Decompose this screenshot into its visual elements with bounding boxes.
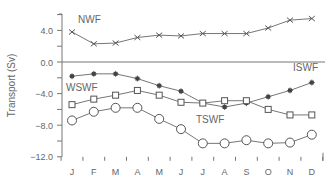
x-tick-label: J bbox=[201, 167, 206, 177]
series-tswf bbox=[68, 103, 317, 148]
series-line bbox=[72, 108, 312, 144]
star-marker-cross bbox=[134, 76, 140, 82]
circle-marker-icon bbox=[111, 103, 120, 112]
circle-marker-icon bbox=[307, 130, 316, 139]
y-axis-label: Transport (Sv) bbox=[6, 54, 17, 118]
square-marker-icon bbox=[113, 92, 119, 98]
star-marker-cross bbox=[69, 73, 75, 79]
square-marker-icon bbox=[243, 98, 249, 104]
circle-marker-icon bbox=[242, 136, 251, 145]
circle-marker-icon bbox=[177, 125, 186, 134]
series-line bbox=[72, 19, 312, 44]
x-tick-label: A bbox=[134, 167, 140, 177]
star-marker-cross bbox=[222, 104, 228, 110]
x-tick-label: M bbox=[155, 167, 163, 177]
x-tick-label: M bbox=[112, 167, 120, 177]
square-marker-icon bbox=[287, 112, 293, 118]
transport-line-chart: 4.00.0−4.0−8.0−12.0Transport (Sv)JFMAMJJ… bbox=[0, 0, 335, 181]
y-tick-label: 0.0 bbox=[40, 58, 53, 68]
square-marker-icon bbox=[91, 96, 97, 102]
x-tick-label: J bbox=[179, 167, 184, 177]
y-tick-label: −4.0 bbox=[35, 89, 53, 99]
square-marker-icon bbox=[222, 98, 228, 104]
x-marker-icon bbox=[265, 26, 271, 31]
square-marker-icon bbox=[69, 102, 75, 108]
x-tick-label: F bbox=[91, 167, 97, 177]
x-tick-label: N bbox=[287, 167, 294, 177]
y-tick-label: 4.0 bbox=[40, 26, 53, 36]
circle-marker-icon bbox=[68, 116, 77, 125]
labels-layer: NWFISWFWSWFTSWF bbox=[66, 14, 318, 125]
y-tick-label: −8.0 bbox=[35, 121, 53, 131]
square-marker-icon bbox=[156, 92, 162, 98]
square-marker-icon bbox=[265, 106, 271, 112]
square-marker-icon bbox=[134, 87, 140, 93]
series-label-tswf: TSWF bbox=[196, 114, 224, 125]
circle-marker-icon bbox=[264, 139, 273, 148]
star-marker-cross bbox=[113, 71, 119, 77]
circle-marker-icon bbox=[286, 138, 295, 147]
circle-marker-icon bbox=[133, 103, 142, 112]
circle-marker-icon bbox=[89, 107, 98, 116]
series-label-nwf: NWF bbox=[78, 14, 101, 25]
x-tick-label: O bbox=[265, 167, 272, 177]
star-marker-cross bbox=[178, 88, 184, 94]
circle-marker-icon bbox=[155, 114, 164, 123]
square-marker-icon bbox=[309, 112, 315, 118]
star-marker-cross bbox=[156, 83, 162, 89]
y-tick-label: −12.0 bbox=[30, 152, 53, 162]
series-label-iswf: ISWF bbox=[293, 62, 318, 73]
x-tick-label: J bbox=[70, 167, 75, 177]
series-line bbox=[72, 74, 312, 107]
axes: 4.00.0−4.0−8.0−12.0Transport (Sv)JFMAMJJ… bbox=[6, 14, 325, 177]
series-nwf bbox=[69, 16, 315, 46]
x-tick-label: S bbox=[243, 167, 249, 177]
star-marker-cross bbox=[265, 94, 271, 100]
series-iswf bbox=[69, 71, 315, 110]
star-marker-cross bbox=[309, 80, 315, 86]
x-tick-label: D bbox=[309, 167, 316, 177]
square-marker-icon bbox=[178, 99, 184, 105]
series-layer bbox=[68, 16, 317, 148]
star-marker-cross bbox=[287, 87, 293, 93]
series-wswf bbox=[69, 87, 315, 117]
circle-marker-icon bbox=[220, 139, 229, 148]
circle-marker-icon bbox=[198, 139, 207, 148]
series-label-wswf: WSWF bbox=[66, 82, 98, 93]
square-marker-icon bbox=[200, 100, 206, 106]
x-marker-icon bbox=[69, 29, 75, 34]
star-marker-cross bbox=[91, 71, 97, 77]
x-tick-label: A bbox=[222, 167, 228, 177]
